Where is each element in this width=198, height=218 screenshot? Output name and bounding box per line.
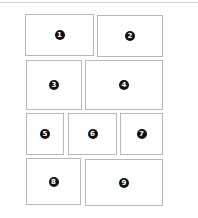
number-badge: 2 <box>125 31 135 41</box>
top-divider <box>0 2 198 3</box>
number-badge: 7 <box>137 129 147 139</box>
number-badge: 8 <box>49 177 59 187</box>
panel-8: 8 <box>26 158 81 205</box>
panel-4: 4 <box>85 60 163 110</box>
number-badge: 4 <box>119 80 129 90</box>
number-badge: 5 <box>40 129 50 139</box>
panel-1: 1 <box>25 14 94 56</box>
panel-2: 2 <box>97 15 163 57</box>
panel-5: 5 <box>26 113 64 155</box>
number-badge: 9 <box>119 178 129 188</box>
number-badge: 1 <box>55 30 65 40</box>
panel-3: 3 <box>26 60 82 110</box>
number-badge: 6 <box>88 129 98 139</box>
panel-9: 9 <box>85 159 163 206</box>
number-badge: 3 <box>49 80 59 90</box>
panel-6: 6 <box>68 113 117 155</box>
panel-7: 7 <box>120 113 163 155</box>
